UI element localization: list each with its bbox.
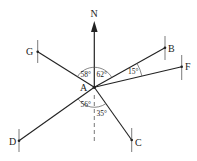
angle-label-GN: 58° [81,70,92,79]
north-ticks [19,36,182,152]
point-label-D: D [9,136,16,147]
north-label: N [91,8,98,19]
bearing-diagram: N G B F D C A 58° 62° 15° 56° [0,0,197,161]
point-label-B: B [168,43,175,54]
angle-label-NB: 62° [97,70,108,79]
angle-label-BF: 15° [128,67,139,76]
ray-AD [19,87,94,140]
point-label-C: C [135,137,142,148]
center-label-A: A [80,82,88,93]
north-arrow-icon [91,21,98,32]
point-label-G: G [26,46,33,57]
endpoint-dots [18,46,183,142]
angle-label-SC: 35° [97,109,108,118]
angle-label-DS: 56° [81,100,92,109]
point-label-F: F [185,61,191,72]
